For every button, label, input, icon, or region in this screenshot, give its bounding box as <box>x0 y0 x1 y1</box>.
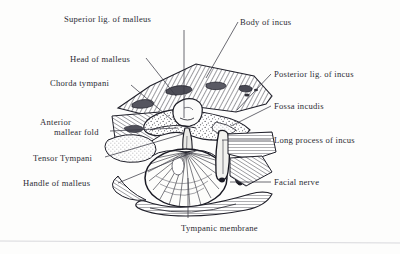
label-long-process-of-incus: Long process of incus <box>274 135 355 145</box>
anatomical-figure: Superior lig. of malleusBody of incusHea… <box>0 0 400 254</box>
label-text: Tensor Tympani <box>33 153 92 163</box>
bottom-rule <box>0 241 400 243</box>
label-text: Posterior lig. of incus <box>274 69 354 79</box>
label-text: Handle of malleus <box>23 178 90 188</box>
label-fossa-incudis: Fossa incudis <box>274 101 324 111</box>
label-posterior-lig-of-incus: Posterior lig. of incus <box>274 69 354 79</box>
label-text: Tympanic membrane <box>181 223 258 233</box>
label-text: Superior lig. of malleus <box>64 14 151 24</box>
promontory-stipple <box>105 135 156 163</box>
label-text: Body of incus <box>240 17 291 27</box>
label-text: Chorda tympani <box>50 78 109 88</box>
label-body-of-incus: Body of incus <box>240 17 291 27</box>
label-text-line2: mallear fold <box>40 127 99 137</box>
long-process-incus-shaft <box>216 130 230 182</box>
label-text: Fossa incudis <box>274 101 324 111</box>
label-superior-lig-of-malleus: Superior lig. of malleus <box>64 14 151 24</box>
label-handle-of-malleus: Handle of malleus <box>23 178 90 188</box>
label-anterior-mallear-fold: Anteriormallear fold <box>40 117 99 137</box>
label-text: Head of malleus <box>70 54 130 64</box>
label-text: Facial nerve <box>274 177 319 187</box>
malleus-head <box>173 99 203 127</box>
label-text: Anterior <box>40 117 71 127</box>
label-tympanic-membrane: Tympanic membrane <box>181 223 258 233</box>
label-chorda-tympani: Chorda tympani <box>50 78 109 88</box>
tympanic-membrane-disc <box>145 149 227 208</box>
anterior-wall-hatching <box>112 176 146 200</box>
label-tensor-tympani: Tensor Tympani <box>33 153 92 163</box>
label-head-of-malleus: Head of malleus <box>70 54 130 64</box>
label-text: Long process of incus <box>274 135 355 145</box>
label-facial-nerve: Facial nerve <box>274 177 319 187</box>
